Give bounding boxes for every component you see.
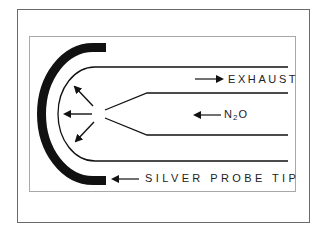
probe-diagram <box>0 0 326 231</box>
nozzle-top <box>105 93 288 110</box>
spray-arrow-down-icon <box>76 122 94 141</box>
n2o-subscript: 2 <box>233 113 238 122</box>
n2o-suffix: O <box>238 108 248 120</box>
n2o-prefix: N <box>224 108 233 120</box>
spray-arrow-up-icon <box>75 87 93 106</box>
silver-probe-tip-label: SILVER PROBE TIP <box>145 173 299 184</box>
n2o-label: N2O <box>224 109 248 120</box>
nozzle-bottom <box>105 118 288 135</box>
exhaust-label: EXHAUST <box>228 74 298 85</box>
